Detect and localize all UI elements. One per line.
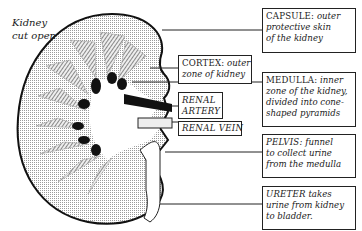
capsule-heading: CAPSULE:: [266, 11, 314, 21]
medulla-text-4: shaped pyramids: [266, 108, 352, 119]
pelvis-text-2: to collect urine: [266, 148, 352, 159]
pelvis-text-3: from the medulla: [266, 159, 352, 170]
label-pelvis: PELVIS: funnel to collect urine from the…: [262, 134, 356, 178]
ureter-text-1: takes: [308, 189, 331, 199]
ureter-text-3: to bladder.: [266, 211, 352, 222]
kidney-diagram: Kidney cut open CAPSULE: outer protectiv…: [0, 0, 362, 231]
medulla-text-2: zone of the kidney,: [266, 86, 352, 97]
pelvis-text-1: funnel: [305, 137, 333, 147]
label-renal-vein: RENAL VEIN: [178, 121, 242, 136]
label-cortex: CORTEX: outer zone of kidney: [178, 55, 252, 84]
title-line-2: cut open: [12, 29, 56, 42]
pelvis-heading: PELVIS:: [266, 137, 303, 147]
label-medulla: MEDULLA: inner zone of the kidney, divid…: [262, 72, 356, 127]
medulla-text-3: divided into cone-: [266, 97, 352, 108]
title-line-1: Kidney: [12, 16, 56, 29]
renal-vein-text: RENAL VEIN: [182, 123, 238, 134]
label-capsule: CAPSULE: outer protective skin of the ki…: [262, 8, 356, 53]
renal-artery-text-2: ARTERY: [182, 106, 219, 117]
ureter-text-2: urine from kidney: [266, 200, 352, 211]
medulla-heading: MEDULLA:: [266, 75, 317, 85]
cortex-text-2: zone of kidney: [182, 69, 248, 80]
ureter-heading: URETER: [266, 189, 306, 199]
label-renal-artery: RENAL ARTERY: [178, 92, 223, 119]
medulla-text-1: inner: [320, 75, 343, 85]
label-ureter: URETER takes urine from kidney to bladde…: [262, 186, 356, 230]
renal-vein-vessel: [138, 118, 172, 128]
renal-artery-text-1: RENAL: [182, 95, 219, 106]
diagram-title: Kidney cut open: [12, 16, 56, 42]
cortex-text-1: outer: [227, 58, 250, 68]
capsule-text-3: of the kidney: [266, 33, 352, 44]
capsule-text-1: outer: [317, 11, 340, 21]
cortex-heading: CORTEX:: [182, 58, 224, 68]
capsule-text-2: protective skin: [266, 22, 352, 33]
